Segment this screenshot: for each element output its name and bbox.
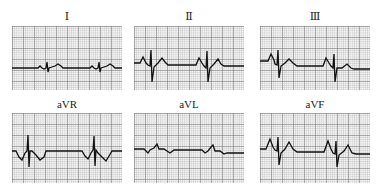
lead-aVL: aVL	[134, 96, 244, 186]
lead-aVF: aVF	[260, 96, 370, 186]
ecg-trace	[134, 113, 244, 183]
ecg-strip	[134, 113, 244, 183]
lead-label: aVL	[134, 98, 244, 110]
ecg-trace	[12, 26, 122, 90]
lead-label: Ⅱ	[134, 10, 244, 22]
lead-III: Ⅲ	[260, 6, 370, 90]
lead-II: Ⅱ	[134, 6, 244, 90]
ecg-strip	[12, 113, 122, 183]
lead-I: Ⅰ	[12, 6, 122, 90]
ecg-trace	[134, 26, 244, 90]
lead-aVR: aVR	[12, 96, 122, 186]
ecg-trace	[260, 113, 370, 183]
lead-label: Ⅲ	[260, 10, 370, 22]
ecg-strip	[260, 26, 370, 90]
lead-label: aVF	[260, 98, 370, 110]
ecg-strip	[12, 26, 122, 90]
ecg-trace	[260, 26, 370, 90]
ecg-trace	[12, 113, 122, 183]
lead-label: aVR	[12, 98, 122, 110]
ecg-strip	[134, 26, 244, 90]
lead-label: Ⅰ	[12, 10, 122, 22]
ecg-strip	[260, 113, 370, 183]
